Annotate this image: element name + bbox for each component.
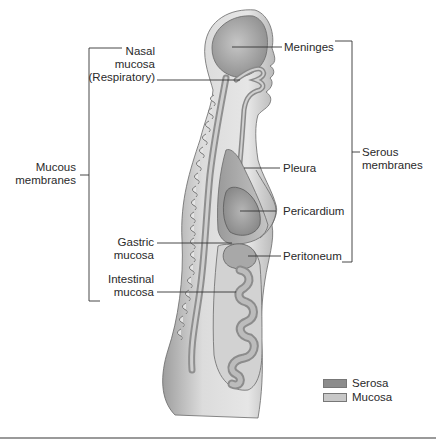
label-line: mucosa [114, 249, 154, 262]
label-line: Mucous [15, 161, 76, 174]
label-line: mucosa [89, 58, 155, 71]
serous-bracket [335, 41, 352, 262]
label-serous-membranes: Serous membranes [362, 146, 423, 172]
label-intestinal-mucosa: Intestinal mucosa [108, 273, 154, 299]
label-nasal-mucosa: Nasal mucosa (Respiratory) [89, 45, 155, 84]
legend-label: Serosa [352, 377, 388, 390]
label-mucous-membranes: Mucous membranes [15, 161, 76, 187]
label-line: Gastric [114, 236, 154, 249]
legend-label: Mucosa [352, 391, 392, 404]
legend-item-mucosa: Mucosa [323, 390, 392, 404]
mucous-bracket [89, 48, 122, 301]
label-line: membranes [15, 174, 76, 187]
label-line: membranes [362, 159, 423, 172]
label-line: (Respiratory) [89, 71, 155, 84]
legend-item-serosa: Serosa [323, 376, 392, 390]
legend: Serosa Mucosa [323, 376, 392, 404]
label-meninges: Meninges [284, 41, 334, 54]
membranes-diagram: Nasal mucosa (Respiratory) Mucous membra… [0, 0, 436, 444]
label-gastric-mucosa: Gastric mucosa [114, 236, 154, 262]
label-peritoneum: Peritoneum [283, 250, 342, 263]
serosa-swatch-icon [323, 379, 347, 388]
label-line: Serous [362, 146, 423, 159]
label-pleura: Pleura [283, 162, 316, 175]
label-line: mucosa [108, 286, 154, 299]
bottom-divider [0, 437, 436, 439]
mucosa-swatch-icon [323, 393, 347, 402]
label-line: Nasal [89, 45, 155, 58]
label-pericardium: Pericardium [283, 205, 344, 218]
label-line: Intestinal [108, 273, 154, 286]
